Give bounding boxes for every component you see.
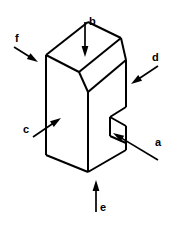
arrow-d-head xyxy=(131,75,142,84)
arrow-label-f: f xyxy=(15,32,19,44)
figure-canvas: abcdef xyxy=(0,0,173,227)
arrow-label-e: e xyxy=(100,201,106,213)
arrow-d-shaft xyxy=(138,66,158,79)
isometric-solid-diagram: abcdef xyxy=(0,0,173,227)
arrow-e-head xyxy=(93,180,100,191)
arrow-label-c: c xyxy=(23,123,29,135)
arrow-label-b: b xyxy=(89,15,96,27)
arrow-f-head xyxy=(27,53,38,62)
arrow-label-d: d xyxy=(152,51,159,63)
arrow-f: f xyxy=(14,32,38,62)
arrow-f-shaft xyxy=(14,47,31,57)
arrow-e: e xyxy=(93,180,107,213)
arrow-d: d xyxy=(131,51,159,84)
arrow-label-a: a xyxy=(155,136,162,148)
